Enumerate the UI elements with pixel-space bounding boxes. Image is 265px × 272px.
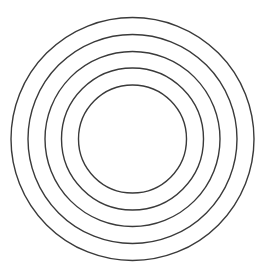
diagram-canvas	[0, 0, 265, 272]
circle-ring-5	[79, 85, 187, 193]
circle-ring-2	[28, 35, 237, 244]
circle-ring-4	[62, 68, 204, 210]
circles-group	[11, 18, 254, 261]
circle-ring-3	[45, 52, 220, 227]
circle-ring-1	[11, 18, 254, 261]
